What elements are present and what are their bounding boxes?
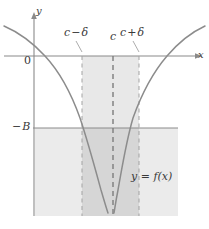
label-c-minus-delta-op: −: [70, 26, 81, 39]
label-c-plus-delta-delta: δ: [137, 26, 144, 39]
label-c-minus-delta-delta: δ: [81, 26, 88, 39]
label-c: c: [110, 31, 116, 42]
label-c-plus-delta-op: +: [126, 26, 137, 39]
label-neg-b: −B: [11, 121, 30, 132]
origin-label: 0: [24, 55, 31, 66]
figure-canvas: [0, 0, 209, 229]
shaded-region-vertical-strip-upper: [82, 56, 139, 128]
x-axis-label: x: [198, 50, 204, 60]
figure-infinite-limit: y x 0 c−δ c c+δ −B y = f(x): [0, 0, 209, 229]
y-axis-label: y: [36, 6, 42, 16]
label-c-plus-delta: c+δ: [120, 27, 144, 38]
leader-c-minus-delta: [76, 41, 82, 52]
label-neg-b-var: B: [22, 120, 30, 133]
leader-c-plus-delta: [133, 41, 139, 52]
label-function: y = f(x): [131, 171, 172, 182]
label-neg-b-op: −: [11, 120, 22, 133]
label-c-minus-delta: c−δ: [64, 27, 88, 38]
